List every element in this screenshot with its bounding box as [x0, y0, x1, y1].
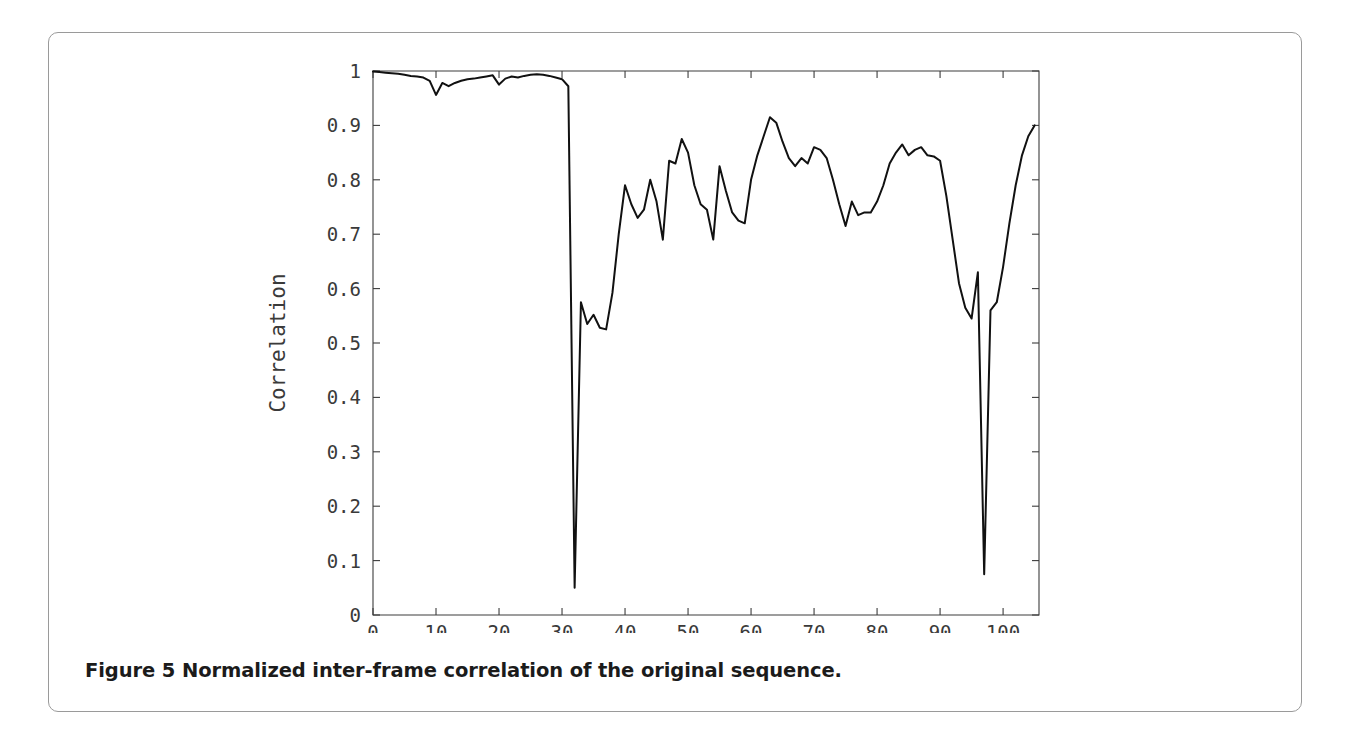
- x-tick-label: 30: [551, 621, 574, 633]
- figure-caption: Figure 5 Normalized inter-frame correlat…: [85, 658, 1275, 683]
- figure-panel: 0102030405060708090100 00.10.20.30.40.50…: [48, 32, 1302, 712]
- x-tick-label: 80: [866, 621, 889, 633]
- figure-caption-text: Normalized inter-frame correlation of th…: [182, 659, 842, 682]
- y-tick-label: 0.1: [327, 550, 361, 572]
- y-tick-label: 0.6: [327, 278, 361, 300]
- y-axis-tick-labels: 00.10.20.30.40.50.60.70.80.91: [327, 60, 361, 626]
- x-tick-label: 90: [929, 621, 952, 633]
- y-tick-label: 0: [350, 604, 361, 626]
- y-tick-label: 0.7: [327, 223, 361, 245]
- axes-frame: [373, 71, 1039, 615]
- x-tick-label: 20: [488, 621, 511, 633]
- y-axis-label: Correlation: [266, 273, 290, 412]
- figure-caption-label: Figure 5: [85, 659, 175, 682]
- x-tick-label: 70: [803, 621, 826, 633]
- y-tick-label: 0.4: [327, 386, 361, 408]
- y-tick-label: 1: [350, 60, 361, 82]
- y-axis-ticks: [373, 71, 1039, 615]
- y-tick-label: 0.3: [327, 441, 361, 463]
- y-tick-label: 0.8: [327, 169, 361, 191]
- x-tick-label: 100: [986, 621, 1020, 633]
- correlation-series-line: [373, 72, 1035, 588]
- x-tick-label: 10: [425, 621, 448, 633]
- x-tick-label: 50: [677, 621, 700, 633]
- x-tick-label: 40: [614, 621, 637, 633]
- figure-caption-space: [175, 659, 182, 682]
- x-axis-tick-labels: 0102030405060708090100: [367, 621, 1020, 633]
- y-tick-label: 0.5: [327, 332, 361, 354]
- figure-page: 0102030405060708090100 00.10.20.30.40.50…: [0, 0, 1348, 748]
- y-tick-label: 0.9: [327, 114, 361, 136]
- correlation-plot: 0102030405060708090100 00.10.20.30.40.50…: [49, 33, 1303, 633]
- y-tick-label: 0.2: [327, 495, 361, 517]
- plot-svg: 0102030405060708090100 00.10.20.30.40.50…: [49, 33, 1303, 633]
- x-tick-label: 60: [740, 621, 763, 633]
- x-tick-label: 0: [367, 621, 378, 633]
